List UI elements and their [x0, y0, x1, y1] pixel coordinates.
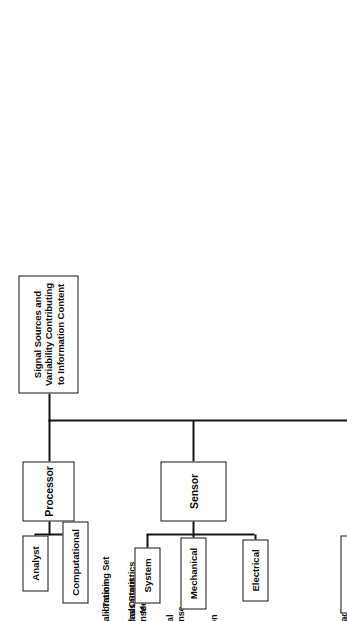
node-computational[interactable]: Computational: [62, 521, 88, 603]
wire-processor-stub: [48, 520, 50, 535]
note-mechanical-1: - Motion: [208, 529, 219, 621]
node-analyst[interactable]: Analyst: [22, 535, 48, 591]
wire-sensor-spine: [146, 534, 254, 536]
node-mechanical[interactable]: Mechanical: [180, 537, 206, 609]
node-atmospheric[interactable]: Atmospheric: [340, 535, 347, 613]
node-processor[interactable]: Processor: [22, 461, 74, 521]
node-system[interactable]: System: [134, 547, 160, 603]
wire-root-to-processor: [48, 420, 50, 461]
wire-root-to-sensor: [192, 420, 194, 461]
wire-sensor-stub: [192, 520, 194, 535]
node-sensor[interactable]: Sensor: [160, 461, 226, 521]
node-root[interactable]: Signal Sources and Variability Contribut…: [18, 275, 78, 393]
note-analyst-1: - Training Set: [100, 493, 111, 613]
diagram-canvas: Signal Sources and Variability Contribut…: [0, 0, 347, 621]
wire-root-spine: [48, 393, 50, 421]
node-electrical[interactable]: Electrical: [242, 539, 268, 601]
wire-root-spine-vertical: [48, 420, 347, 422]
